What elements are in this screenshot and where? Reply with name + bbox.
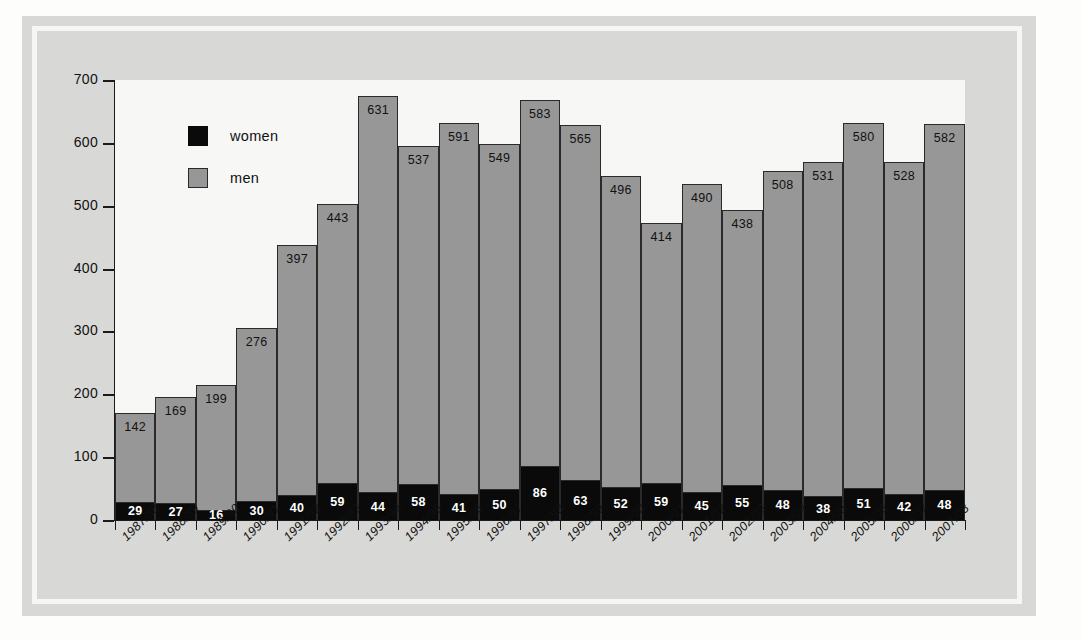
x-axis-tick-mark <box>398 521 399 530</box>
bar-column: 50848 <box>763 80 803 520</box>
bar-value-women: 58 <box>411 495 426 509</box>
legend-item-men: men <box>188 168 278 188</box>
bar-segment-men: 276 <box>236 328 276 501</box>
y-axis-tick-label: 400 <box>74 260 98 276</box>
bar-value-men: 549 <box>489 151 511 165</box>
bar-segment-men: 583 <box>520 100 560 466</box>
bar-column: 54950 <box>479 80 519 520</box>
bar-segment-men: 443 <box>317 204 357 482</box>
bar-segment-men: 169 <box>155 397 195 503</box>
bar-value-men: 528 <box>893 169 915 183</box>
bar-value-men: 537 <box>408 153 430 167</box>
bar-segment-men: 631 <box>358 96 398 493</box>
bar-value-men: 565 <box>570 132 592 146</box>
y-axis-tick-label: 100 <box>74 448 98 464</box>
bar-value-women: 50 <box>492 498 507 512</box>
x-axis-tick-mark <box>277 521 278 530</box>
legend-label-women: women <box>230 128 278 144</box>
bar-value-men: 443 <box>327 211 349 225</box>
x-axis-tick-mark <box>358 521 359 530</box>
bar-value-women: 55 <box>735 496 750 510</box>
bar-column: 58386 <box>520 80 560 520</box>
bar-value-men: 580 <box>853 130 875 144</box>
bar-column: 41459 <box>641 80 681 520</box>
y-axis-tick-mark <box>103 331 114 333</box>
bar-value-men: 276 <box>246 335 268 349</box>
bar-column: 52842 <box>884 80 924 520</box>
bar-value-men: 397 <box>286 252 308 266</box>
y-axis-tick-mark <box>103 394 114 396</box>
bar-column: 59141 <box>439 80 479 520</box>
y-axis-tick-label: 0 <box>90 511 98 527</box>
bar-value-men: 582 <box>934 131 956 145</box>
legend-swatch-women <box>188 126 208 146</box>
y-axis-line <box>114 80 115 521</box>
bar-segment-men: 490 <box>682 184 722 492</box>
x-axis-tick-mark <box>236 521 237 530</box>
y-axis-tick-mark <box>103 269 114 271</box>
bar-segment-men: 199 <box>196 385 236 510</box>
bar-segment-men: 531 <box>803 162 843 496</box>
y-axis-tick-mark <box>103 206 114 208</box>
x-axis-tick-mark <box>763 521 764 530</box>
bar-value-men: 199 <box>205 392 227 406</box>
bar-value-women: 86 <box>533 486 548 500</box>
bar-value-women: 48 <box>937 498 952 512</box>
y-axis-tick-mark <box>103 80 114 82</box>
bar-column: 58051 <box>843 80 883 520</box>
bar-column: 56563 <box>560 80 600 520</box>
x-axis-tick-mark <box>925 521 926 530</box>
bar-value-men: 508 <box>772 178 794 192</box>
bar-value-men: 591 <box>448 130 470 144</box>
bar-value-men: 142 <box>124 420 146 434</box>
bar-segment-men: 438 <box>722 210 762 485</box>
bar-column: 14229 <box>115 80 155 520</box>
bar-value-women: 63 <box>573 494 588 508</box>
bar-column: 53758 <box>398 80 438 520</box>
y-axis-tick-label: 300 <box>74 322 98 338</box>
x-axis-tick-mark <box>317 521 318 530</box>
bar-value-women: 51 <box>856 497 871 511</box>
y-axis-tick-label: 700 <box>74 71 98 87</box>
bar-column: 44359 <box>317 80 357 520</box>
bar-segment-men: 591 <box>439 123 479 494</box>
bar-segment-men: 142 <box>115 413 155 502</box>
x-axis-tick-mark <box>803 521 804 530</box>
bar-segment-men: 582 <box>924 124 964 490</box>
bar-value-men: 583 <box>529 107 551 121</box>
bar-column: 53138 <box>803 80 843 520</box>
y-axis-tick-mark <box>103 457 114 459</box>
legend-swatch-men <box>188 168 208 188</box>
bar-segment-men: 580 <box>843 123 883 488</box>
x-axis-tick-mark <box>682 521 683 530</box>
bar-value-men: 631 <box>367 103 389 117</box>
bar-segment-men: 508 <box>763 171 803 490</box>
bar-segment-men: 537 <box>398 146 438 484</box>
bar-value-women: 59 <box>330 495 345 509</box>
bar-segment-men: 549 <box>479 144 519 489</box>
bar-segment-men: 397 <box>277 245 317 495</box>
y-axis-tick-label: 200 <box>74 385 98 401</box>
y-axis-tick-mark <box>103 520 114 522</box>
bar-value-men: 169 <box>165 404 187 418</box>
bar-segment-men: 565 <box>560 125 600 480</box>
bar-value-men: 438 <box>731 217 753 231</box>
bar-value-men: 414 <box>650 230 672 244</box>
y-axis-tick-mark <box>103 143 114 145</box>
bar-column: 49652 <box>601 80 641 520</box>
bar-value-women: 48 <box>775 498 790 512</box>
bar-value-women: 59 <box>654 495 669 509</box>
legend-label-men: men <box>230 170 259 186</box>
bar-value-men: 496 <box>610 183 632 197</box>
x-axis-tick-mark <box>479 521 480 530</box>
bar-segment-men: 414 <box>641 223 681 483</box>
x-axis-tick-mark <box>884 521 885 530</box>
x-axis-tick-mark <box>722 521 723 530</box>
bar-column: 39740 <box>277 80 317 520</box>
bar-column: 43855 <box>722 80 762 520</box>
x-axis-tick-mark <box>115 521 116 530</box>
y-axis-tick-label: 500 <box>74 197 98 213</box>
x-axis-tick-mark <box>844 521 845 530</box>
bar-segment-men: 496 <box>601 176 641 488</box>
scanned-figure: 1422916927199162763039740443596314453758… <box>0 0 1082 641</box>
